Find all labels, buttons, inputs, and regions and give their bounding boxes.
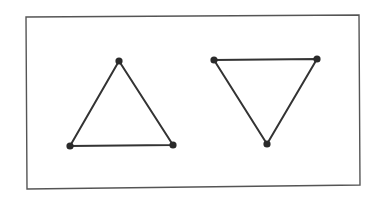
downward-triangle-bottom-vertex	[263, 140, 270, 147]
upward-triangle	[66, 57, 176, 149]
upward-triangle-bottom-right-vertex	[169, 141, 176, 148]
diagram-canvas	[0, 0, 385, 199]
upward-triangle-edges	[70, 61, 173, 146]
upward-triangle-top-vertex	[115, 57, 122, 64]
downward-triangle-top-right-vertex	[313, 55, 320, 62]
upward-triangle-bottom-left-vertex	[66, 142, 73, 149]
triangles-diagram	[0, 0, 385, 199]
frame-border	[26, 15, 360, 189]
downward-triangle-top-left-vertex	[210, 56, 217, 63]
downward-triangle-edges	[214, 59, 317, 144]
downward-triangle	[210, 55, 320, 147]
